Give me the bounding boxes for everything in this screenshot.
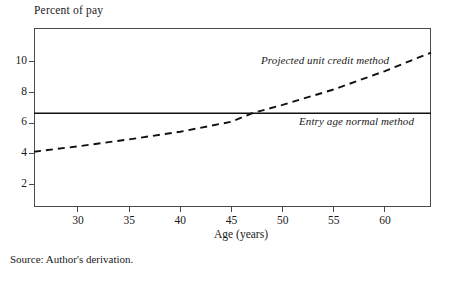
x-tick-label: 60: [379, 214, 391, 226]
x-tick-label: 30: [72, 214, 84, 226]
annotation-projected-unit-credit-method: Projected unit credit method: [261, 54, 389, 66]
y-tick-label: 6: [21, 115, 27, 127]
y-tick-mark: [29, 184, 34, 185]
y-tick-mark: [29, 92, 34, 93]
y-tick-label: 10: [16, 54, 28, 66]
chart-figure: Percent of pay 246810 30354045505560 Age…: [0, 0, 451, 281]
y-tick-label: 8: [21, 85, 27, 97]
x-tick-label: 50: [277, 214, 289, 226]
x-tick-label: 35: [123, 214, 135, 226]
x-tick-mark: [231, 207, 232, 212]
x-tick-mark: [180, 207, 181, 212]
x-tick-label: 55: [328, 214, 340, 226]
y-tick-label: 2: [21, 177, 27, 189]
annotation-entry-age-normal-method: Entry age normal method: [299, 115, 414, 127]
y-tick-mark: [29, 153, 34, 154]
series-line-projected-unit-credit: [34, 53, 431, 152]
y-tick-mark: [29, 123, 34, 124]
x-tick-mark: [129, 207, 130, 212]
y-tick-label: 4: [21, 146, 27, 158]
x-tick-mark: [282, 207, 283, 212]
x-tick-mark: [384, 207, 385, 212]
source-note: Source: Author's derivation.: [10, 253, 133, 265]
x-tick-label: 40: [175, 214, 187, 226]
y-axis-title: Percent of pay: [34, 4, 103, 16]
y-tick-mark: [29, 61, 34, 62]
x-axis-title: Age (years): [214, 228, 268, 240]
x-tick-label: 45: [226, 214, 238, 226]
x-tick-mark: [333, 207, 334, 212]
x-tick-mark: [77, 207, 78, 212]
